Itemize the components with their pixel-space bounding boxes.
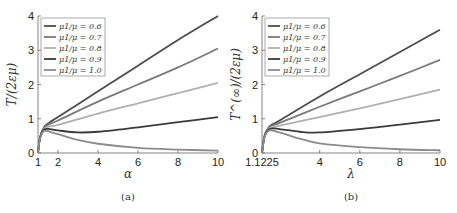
- y-tick-label: 3: [28, 44, 34, 56]
- figure: 012341246810μ1/μ = 0.6μ1/μ = 0.7μ1/μ = 0…: [0, 0, 457, 213]
- x-tick-label: 4: [317, 156, 323, 168]
- x-tick-label: 10: [212, 156, 224, 168]
- y-tick-label: 4: [252, 10, 258, 22]
- x-tick-label: 8: [175, 156, 181, 168]
- legend-label: μ1/μ = 0.9: [59, 55, 102, 64]
- x-tick-label: 4: [95, 156, 101, 168]
- y-tick-label: 1: [252, 113, 258, 125]
- chart-panel-a: 012341246810μ1/μ = 0.6μ1/μ = 0.7μ1/μ = 0…: [5, 10, 224, 202]
- series-line: [262, 130, 440, 153]
- x-tick-label: 1.1225: [245, 156, 279, 168]
- y-tick-label: 2: [252, 79, 258, 91]
- x-axis-label: α: [124, 167, 132, 181]
- chart-panel-b: 012341.122546810μ1/μ = 0.6μ1/μ = 0.7μ1/μ…: [229, 10, 446, 202]
- legend-label: μ1/μ = 0.6: [283, 22, 326, 31]
- legend-label: μ1/μ = 0.9: [283, 55, 326, 64]
- legend-label: μ1/μ = 1.0: [59, 66, 102, 75]
- legend-label: μ1/μ = 0.7: [283, 33, 327, 42]
- x-tick-label: 1: [35, 156, 41, 168]
- panel-caption: (b): [344, 191, 358, 202]
- series-line: [38, 131, 218, 153]
- legend-label: μ1/μ = 1.0: [283, 66, 326, 75]
- legend-label: μ1/μ = 0.7: [59, 33, 103, 42]
- x-tick-label: 10: [434, 156, 446, 168]
- legend-label: μ1/μ = 0.6: [59, 22, 102, 31]
- y-axis-label: T^(∞)/(2εμ): [229, 48, 243, 121]
- x-tick-label: 2: [55, 156, 61, 168]
- x-tick-label: 6: [135, 156, 141, 168]
- legend-label: μ1/μ = 0.8: [59, 44, 102, 53]
- x-axis-label: λ: [346, 167, 355, 181]
- y-tick-label: 2: [28, 79, 34, 91]
- panel-caption: (a): [121, 191, 135, 202]
- y-tick-label: 3: [252, 44, 258, 56]
- y-tick-label: 1: [28, 113, 34, 125]
- legend-label: μ1/μ = 0.8: [283, 44, 326, 53]
- x-tick-label: 6: [357, 156, 363, 168]
- series-line: [262, 90, 440, 153]
- y-axis-label: T/(2εμ): [5, 63, 19, 107]
- series-line: [262, 120, 440, 153]
- y-tick-label: 0: [28, 147, 34, 159]
- x-tick-label: 8: [397, 156, 403, 168]
- y-tick-label: 4: [28, 10, 34, 22]
